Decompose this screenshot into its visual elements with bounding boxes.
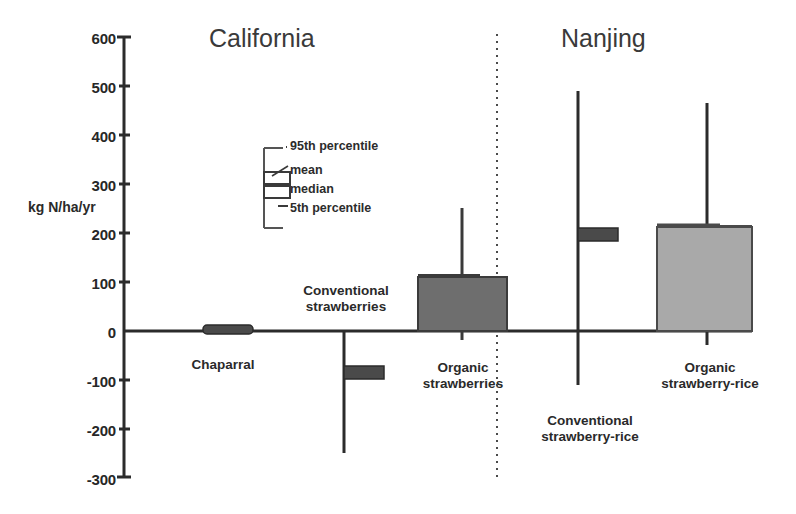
chaparral-box [203, 325, 253, 334]
plot-canvas [0, 0, 796, 514]
datapoint-conventional-strawberries [337, 331, 384, 453]
conventional-strawberries-box [344, 366, 384, 379]
datapoint-organic-strawberries [418, 208, 507, 340]
datapoint-conventional-strawberry-rice [578, 91, 618, 385]
datapoint-chaparral [203, 325, 253, 334]
organic-strawberry-rice-bar [657, 227, 752, 331]
datapoint-organic-strawberry-rice [657, 103, 752, 345]
organic-strawberries-bar [418, 277, 507, 331]
conventional-strawberry-rice-box [578, 228, 618, 241]
legend-boxplot-key [264, 147, 290, 228]
chart-figure: 600 500 400 300 200 100 0 -100 -200 -300… [0, 0, 796, 514]
